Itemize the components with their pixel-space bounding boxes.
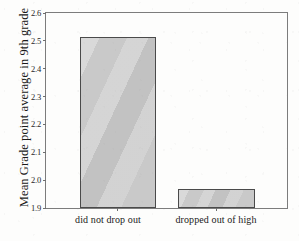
y-axis-tick: 2.3 [31, 92, 46, 102]
y-tick-mark [43, 68, 46, 69]
y-tick-label: 2.3 [31, 92, 41, 102]
y-axis-tick: 2.4 [31, 64, 46, 74]
y-tick-label: 2.6 [31, 8, 41, 18]
y-axis-tick: 1.9 [31, 203, 46, 213]
x-category-label-1: did not drop out [58, 214, 158, 225]
y-tick-label: 2.4 [31, 64, 41, 74]
x-category-label-2: dropped out of high [157, 214, 275, 225]
y-tick-label: 2.0 [31, 175, 41, 185]
bar-dropped-out-of-high[interactable] [178, 189, 255, 209]
y-tick-label: 2.5 [31, 36, 41, 46]
y-tick-mark [43, 152, 46, 153]
x-axis-tick [117, 208, 118, 211]
bar-did-not-drop-out[interactable] [80, 37, 156, 208]
y-axis-tick: 2.0 [31, 175, 46, 185]
y-axis-tick: 2.2 [31, 119, 46, 129]
y-tick-mark [43, 124, 46, 125]
y-axis-tick: 2.5 [31, 36, 46, 46]
x-axis-tick [216, 208, 217, 211]
y-tick-label: 2.2 [31, 119, 41, 129]
y-tick-label: 1.9 [31, 203, 41, 213]
y-tick-mark [43, 208, 46, 209]
y-tick-mark [43, 180, 46, 181]
plot-area: 1.9 2.0 2.1 2.2 2.3 2.4 2.5 2.6 [45, 12, 288, 209]
y-tick-mark [43, 13, 46, 14]
y-axis-title: Mean Grade point average in 9th grade [17, 8, 32, 208]
chart-figure: Mean Grade point average in 9th grade 1.… [0, 0, 299, 241]
y-axis-tick: 2.6 [31, 8, 46, 18]
y-tick-mark [43, 96, 46, 97]
y-tick-mark [43, 40, 46, 41]
y-axis-tick: 2.1 [31, 147, 46, 157]
y-tick-label: 2.1 [31, 147, 41, 157]
